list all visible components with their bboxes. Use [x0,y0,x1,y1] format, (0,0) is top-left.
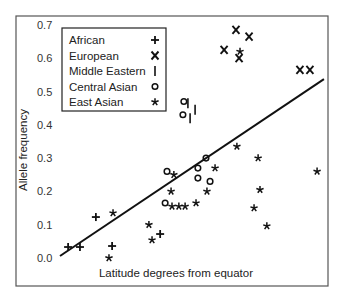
data-point-circle-marker [195,175,201,181]
data-point-asterisk-marker [236,48,243,55]
y-tick-label: 0.6 [37,52,52,64]
x-axis-label: Latitude degrees from equator [99,267,253,279]
y-tick-label: 0.7 [37,19,52,31]
y-tick-label: 0.4 [37,119,52,131]
data-point-plus-marker [108,242,116,250]
data-point-asterisk-marker [148,236,155,243]
scatter-chart: 0.00.10.20.30.40.50.60.7 Allele frequenc… [0,0,343,299]
data-point-x-marker [221,46,228,54]
data-point-asterisk-marker [168,203,175,210]
y-tick-label: 0.2 [37,185,52,197]
data-point-asterisk-marker [167,188,174,195]
data-point-asterisk-marker [250,204,257,211]
legend-label: African [69,34,105,46]
data-point-asterisk-marker [105,254,112,261]
data-point-plus-marker [156,230,164,238]
data-point-x-marker [232,26,239,34]
data-point-x-marker [236,54,243,62]
legend-label: Middle Eastern [69,65,146,77]
data-point-circle-marker [164,169,170,175]
data-point-x-marker [246,33,253,41]
data-point-circle-marker [162,200,168,206]
legend: AfricanEuropeanMiddle EasternCentral Asi… [62,28,166,111]
data-point-asterisk-marker [170,171,177,178]
y-tick-label: 0.0 [37,252,52,264]
data-point-circle-marker [195,165,201,171]
data-point-asterisk-marker [256,186,263,193]
data-point-asterisk-marker [181,203,188,210]
data-point-asterisk-marker [211,164,218,171]
legend-label: European [69,50,119,62]
y-tick-label: 0.1 [37,219,52,231]
data-point-asterisk-marker [145,221,152,228]
y-axis-ticks: 0.00.10.20.30.40.50.60.7 [37,19,52,264]
legend-label: Central Asian [69,81,137,93]
y-tick-label: 0.5 [37,86,52,98]
legend-label: East Asian [69,96,123,108]
data-point-asterisk-marker [313,168,320,175]
data-point-asterisk-marker [192,199,199,206]
data-point-asterisk-marker [203,188,210,195]
data-point-circle-marker [181,99,187,105]
data-point-asterisk-marker [263,222,270,229]
data-point-asterisk-marker [175,203,182,210]
data-point-x-marker [306,66,313,74]
data-point-asterisk-marker [109,209,116,216]
data-point-asterisk-marker [254,154,261,161]
data-point-circle-marker [207,179,213,185]
data-point-circle-marker [180,112,186,118]
data-point-x-marker [296,66,303,74]
data-point-plus-marker [92,213,100,221]
data-point-asterisk-marker [233,143,240,150]
y-axis-label: Allele frequency [17,109,29,191]
y-tick-label: 0.3 [37,152,52,164]
